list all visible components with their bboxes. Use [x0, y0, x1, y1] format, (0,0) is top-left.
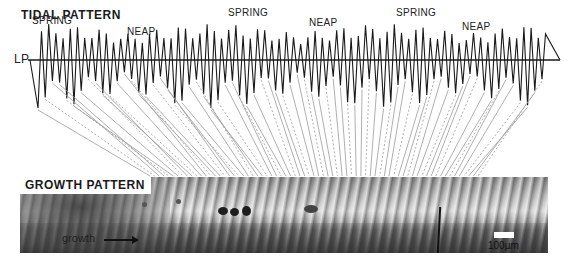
inclusion [230, 208, 239, 216]
growth-arrow-icon [104, 239, 134, 241]
inclusion [218, 207, 228, 215]
inclusion [142, 202, 147, 207]
inclusion [242, 206, 251, 216]
inclusion [304, 205, 318, 213]
scale-bar [494, 232, 514, 238]
growth-direction-label: growth [62, 232, 95, 244]
growth-pattern-photo: GROWTH PATTERN growth 100µm [20, 177, 548, 253]
lower-shade [20, 223, 548, 253]
scale-label: 100µm [488, 240, 519, 251]
inclusion [176, 199, 181, 204]
growth-pattern-title: GROWTH PATTERN [20, 177, 151, 194]
